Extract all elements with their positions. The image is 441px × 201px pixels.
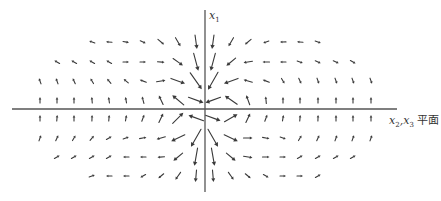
vector-arrow	[297, 41, 303, 44]
vector-arrow	[123, 61, 129, 64]
vector-arrow	[315, 41, 321, 43]
vector-arrow	[263, 61, 270, 64]
vector-arrow	[263, 137, 270, 140]
vector-arrow	[158, 156, 165, 159]
vector-arrow	[226, 153, 235, 161]
vector-arrow	[350, 156, 355, 159]
vector-arrow	[352, 115, 355, 121]
vector-arrow	[107, 79, 111, 84]
vector-arrow	[370, 135, 372, 141]
vector-arrow	[91, 97, 94, 103]
x3-sub: 3	[409, 121, 413, 129]
vector-arrow	[123, 137, 129, 139]
vector-arrow	[333, 61, 338, 64]
vector-arrow	[282, 115, 285, 121]
vector-arrow	[244, 156, 253, 159]
vector-arrow	[280, 175, 286, 178]
vector-arrow	[91, 115, 94, 121]
vector-arrow	[90, 136, 94, 141]
vector-arrow	[140, 61, 146, 64]
vector-arrow	[89, 156, 94, 159]
vector-arrow	[71, 61, 76, 64]
vector-arrow	[140, 175, 145, 178]
vector-arrow	[352, 135, 354, 141]
vector-arrow	[108, 115, 111, 121]
vector-arrow	[335, 135, 337, 141]
vector-arrow	[297, 175, 303, 178]
vector-arrow	[205, 97, 220, 103]
vector-arrow	[317, 135, 320, 140]
vector-arrow	[190, 73, 201, 89]
vector-arrow	[194, 35, 198, 49]
vector-arrow	[158, 39, 164, 44]
vector-arrow	[225, 114, 238, 122]
vector-arrow	[282, 78, 285, 83]
vector-arrow	[171, 78, 185, 84]
vector-arrow	[265, 115, 268, 122]
vector-arrow	[191, 129, 201, 146]
vector-arrow	[282, 97, 285, 103]
vector-arrow	[171, 135, 185, 142]
vector-arrow	[315, 61, 320, 64]
vector-arrow	[106, 175, 112, 178]
vector-arrow	[315, 175, 320, 178]
vector-arrow	[352, 97, 355, 103]
vector-arrow	[89, 61, 94, 64]
vector-arrow	[299, 97, 302, 103]
vector-arrow	[210, 35, 214, 49]
vector-arrow	[246, 95, 250, 104]
vector-arrow	[224, 78, 238, 84]
vector-arrow	[39, 97, 42, 103]
vector-arrow	[173, 153, 182, 161]
vector-arrow	[89, 41, 95, 43]
vector-arrow	[245, 39, 251, 44]
vector-arrow	[208, 129, 218, 146]
vector-arrow	[370, 78, 372, 84]
vector-arrow	[140, 156, 146, 159]
vector-arrow	[205, 115, 220, 121]
vector-arrow	[39, 115, 42, 121]
vector-arrow	[280, 61, 286, 64]
x1-axis-label: x1	[209, 10, 220, 24]
vector-arrow	[299, 78, 302, 83]
vector-arrow	[229, 38, 234, 47]
vector-arrow	[123, 156, 129, 159]
vector-arrow	[173, 59, 183, 66]
vector-arrow	[54, 156, 59, 159]
vector-arrow	[106, 156, 111, 159]
vector-arrow	[158, 174, 163, 179]
vector-arrow	[125, 97, 128, 103]
vector-arrow	[39, 135, 41, 141]
vector-arrow	[370, 115, 373, 121]
vector-arrow	[228, 172, 233, 179]
vector-arrow	[208, 72, 218, 89]
vector-arrow	[73, 78, 76, 83]
vector-arrow	[280, 41, 286, 44]
vector-arrow	[157, 137, 166, 140]
vector-arrow	[350, 61, 355, 64]
vector-arrow	[106, 41, 112, 44]
vector-arrow	[89, 175, 95, 177]
vector-arrow	[73, 115, 76, 121]
vector-arrow	[244, 79, 253, 82]
vector-arrow	[106, 137, 111, 140]
vector-arrow	[140, 137, 147, 140]
vector-arrow	[225, 96, 237, 105]
vector-arrow	[263, 41, 269, 43]
vector-arrow	[142, 115, 145, 122]
vector-arrow	[211, 148, 216, 166]
vector-arrow	[188, 97, 203, 103]
vector-arrow	[280, 156, 286, 159]
vector-arrow	[73, 97, 76, 103]
vector-arrow	[141, 97, 144, 104]
x1-sub: 1	[215, 16, 219, 24]
vector-arrow	[56, 78, 58, 84]
vector-arrow	[352, 78, 354, 84]
vector-arrow	[157, 79, 166, 82]
vector-arrow	[194, 53, 200, 70]
x2-x3-plane-label: x2,x3平面	[389, 115, 439, 129]
vector-arrow	[56, 115, 59, 121]
vector-arrow	[172, 95, 184, 105]
vector-arrow	[173, 113, 184, 124]
vector-arrow	[317, 97, 320, 103]
